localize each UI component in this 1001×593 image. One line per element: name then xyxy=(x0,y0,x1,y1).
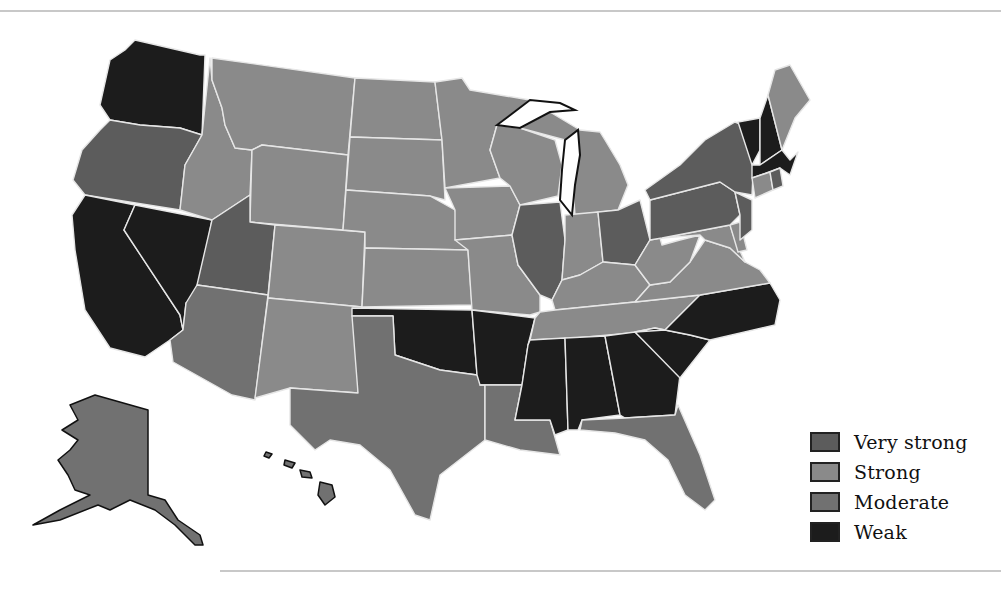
bottom-divider xyxy=(220,570,1001,572)
state-florida[interactable] xyxy=(580,405,715,510)
state-alaska[interactable] xyxy=(33,395,203,545)
legend-item-strong: Strong xyxy=(810,457,968,487)
legend-item-moderate: Moderate xyxy=(810,487,968,517)
legend-label: Strong xyxy=(854,461,921,483)
legend: Very strong Strong Moderate Weak xyxy=(810,427,968,547)
legend-label: Weak xyxy=(854,521,907,543)
legend-item-very-strong: Very strong xyxy=(810,427,968,457)
state-rhode-island[interactable] xyxy=(770,168,783,190)
state-iowa[interactable] xyxy=(445,186,520,240)
legend-swatch-moderate xyxy=(810,492,840,512)
state-hawaii-oahu[interactable] xyxy=(264,452,272,458)
state-kansas[interactable] xyxy=(362,248,472,307)
legend-label: Moderate xyxy=(854,491,949,513)
state-hawaii-maui[interactable] xyxy=(300,470,312,478)
legend-label: Very strong xyxy=(854,431,968,453)
state-colorado[interactable] xyxy=(268,225,365,307)
legend-swatch-strong xyxy=(810,462,840,482)
legend-swatch-weak xyxy=(810,522,840,542)
state-wyoming[interactable] xyxy=(250,145,348,230)
state-hawaii-molokai[interactable] xyxy=(284,460,295,468)
state-north-dakota[interactable] xyxy=(350,78,442,140)
legend-swatch-very-strong xyxy=(810,432,840,452)
state-montana[interactable] xyxy=(212,58,355,155)
state-hawaii-main[interactable] xyxy=(318,482,335,505)
state-new-mexico[interactable] xyxy=(255,298,362,398)
legend-item-weak: Weak xyxy=(810,517,968,547)
